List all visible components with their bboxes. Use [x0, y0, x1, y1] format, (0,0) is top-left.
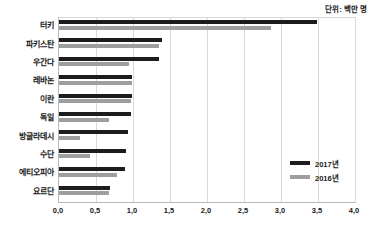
legend-label: 2016년 — [315, 172, 339, 183]
legend-swatch-icon — [290, 161, 310, 165]
bar-2016 — [59, 44, 159, 48]
bar-2016 — [59, 81, 132, 85]
plot-area: 2017년2016년 — [58, 17, 356, 203]
x-tick-label: 3,5 — [312, 206, 322, 215]
y-tick-label: 독일 — [0, 113, 54, 122]
bar-2017 — [59, 186, 110, 190]
y-tick-label: 터키 — [0, 21, 54, 30]
bar-2016 — [59, 136, 80, 140]
bar-group — [59, 110, 355, 128]
y-tick-label: 레바논 — [0, 76, 54, 85]
x-tick-label: 0,5 — [90, 206, 100, 215]
bar-group — [59, 36, 355, 54]
bar-2017 — [59, 57, 159, 61]
bar-2016 — [59, 154, 90, 158]
x-axis-tick-labels: 0,00,51,01,52,02,53,03,54,0 — [58, 206, 356, 220]
gridline — [355, 18, 356, 202]
y-tick-label: 이란 — [0, 95, 54, 104]
refugee-hosting-bar-chart: 단위: 백만 명 터키파키스탄우간다레바논이란독일방글라데시수단에티오피아요르단… — [0, 0, 375, 242]
x-tick-label: 1,5 — [164, 206, 174, 215]
bar-group — [59, 73, 355, 91]
bar-group — [59, 55, 355, 73]
bar-2017 — [59, 167, 125, 171]
y-tick-label: 방글라데시 — [0, 132, 54, 141]
bar-2016 — [59, 26, 271, 30]
x-tick-label: 1,0 — [127, 206, 137, 215]
legend-item: 2017년 — [290, 157, 339, 169]
y-tick-label: 우간다 — [0, 58, 54, 67]
bar-2016 — [59, 62, 129, 66]
bar-2017 — [59, 75, 132, 79]
bar-2017 — [59, 130, 128, 134]
legend: 2017년2016년 — [290, 157, 339, 185]
y-tick-label: 파키스탄 — [0, 40, 54, 49]
y-tick-label: 수단 — [0, 150, 54, 159]
bar-2016 — [59, 191, 109, 195]
bar-2016 — [59, 118, 109, 122]
legend-swatch-icon — [290, 175, 310, 179]
bar-2017 — [59, 112, 131, 116]
bar-2017 — [59, 94, 132, 98]
bar-group — [59, 18, 355, 36]
bar-group — [59, 184, 355, 202]
bar-group — [59, 128, 355, 146]
unit-note: 단위: 백만 명 — [325, 3, 367, 14]
x-tick-label: 3,0 — [275, 206, 285, 215]
bar-2016 — [59, 99, 131, 103]
y-tick-label: 에티오피아 — [0, 168, 54, 177]
bar-group — [59, 92, 355, 110]
bar-2017 — [59, 20, 317, 24]
x-tick-label: 2,0 — [201, 206, 211, 215]
bar-2016 — [59, 173, 117, 177]
bar-2017 — [59, 149, 126, 153]
legend-item: 2016년 — [290, 171, 339, 183]
x-tick-label: 0,0 — [53, 206, 63, 215]
x-tick-label: 4,0 — [349, 206, 359, 215]
legend-label: 2017년 — [315, 158, 339, 169]
x-tick-label: 2,5 — [238, 206, 248, 215]
y-axis-category-labels: 터키파키스탄우간다레바논이란독일방글라데시수단에티오피아요르단 — [0, 17, 54, 203]
bar-2017 — [59, 38, 162, 42]
y-tick-label: 요르단 — [0, 187, 54, 196]
